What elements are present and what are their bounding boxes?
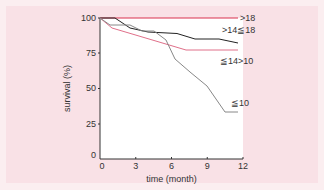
y-axis-label: survival (%) — [62, 65, 72, 112]
series-label-gt18: >18 — [240, 13, 255, 23]
ytick-75: 75 — [86, 48, 96, 58]
xtick-3: 3 — [133, 161, 138, 171]
xtick-9: 9 — [205, 161, 210, 171]
y-ticks: 100 75 50 25 0 — [81, 13, 100, 160]
series-line-le10 — [100, 18, 238, 112]
series-label-10-14: ≦14>10 — [220, 56, 253, 66]
ytick-50: 50 — [86, 83, 96, 93]
xtick-0: 0 — [99, 161, 104, 171]
ytick-0: 0 — [91, 150, 96, 160]
ytick-100: 100 — [81, 13, 96, 23]
xtick-12: 12 — [238, 161, 248, 171]
series-label-14-18: >14≦18 — [222, 25, 255, 35]
series-label-le10: ≦10 — [231, 98, 249, 108]
x-axis-label: time (month) — [146, 174, 197, 184]
xtick-6: 6 — [169, 161, 174, 171]
survival-chart: 100 75 50 25 0 0 3 6 9 12 time (month) s… — [0, 0, 324, 190]
ytick-25: 25 — [86, 119, 96, 129]
